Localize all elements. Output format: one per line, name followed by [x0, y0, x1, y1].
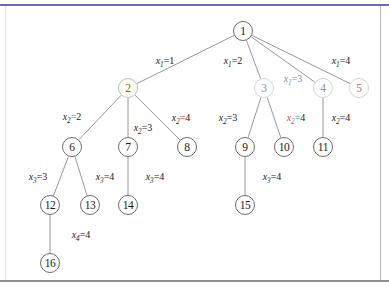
tree-node-16[interactable]: 16 [40, 253, 60, 273]
edge-label-value: 4 [276, 171, 281, 182]
edge-label-value: 3 [147, 122, 152, 133]
tree-node-12[interactable]: 12 [40, 195, 60, 215]
figure-page: 12345678910111213141516 x1=1x1=2x1=3x1=4… [0, 0, 389, 292]
edge-label: x1=2 [224, 55, 243, 68]
edge-label-value: 3 [42, 171, 47, 182]
tree-node-13[interactable]: 13 [80, 195, 100, 215]
tree-edge [246, 40, 260, 78]
edge-label-value: 4 [109, 171, 114, 182]
tree-edge [79, 95, 121, 139]
tree-edge [248, 98, 261, 138]
tree-node-10[interactable]: 10 [274, 137, 294, 157]
edge-label-value: 4 [85, 229, 90, 240]
tree-node-6[interactable]: 6 [62, 137, 82, 157]
tree-node-4[interactable]: 4 [313, 78, 333, 98]
edge-label: x2=4 [172, 112, 191, 125]
edge-label-value: 3 [232, 112, 237, 123]
edge-label-value: 4 [185, 112, 190, 123]
tree-edge [54, 156, 69, 195]
edge-label: x3=4 [96, 171, 115, 184]
edge-label: x3=4 [263, 171, 282, 184]
tree-node-2[interactable]: 2 [118, 78, 138, 98]
edge-label: x4=4 [72, 229, 91, 242]
edge-label-value: 4 [159, 171, 164, 182]
tree-node-11[interactable]: 11 [313, 137, 333, 157]
edge-label: x1=4 [332, 55, 351, 68]
tree-node-14[interactable]: 14 [118, 195, 138, 215]
edge-label-value: 4 [345, 55, 350, 66]
tree-node-9[interactable]: 9 [235, 137, 255, 157]
tree-node-3[interactable]: 3 [254, 78, 274, 98]
edge-label-value: 4 [300, 112, 305, 123]
edge-label: x3=3 [29, 171, 48, 184]
tree-node-7[interactable]: 7 [118, 137, 138, 157]
tree-edge [137, 35, 234, 83]
edge-label: x1=1 [156, 55, 175, 68]
edge-label: x2=3 [219, 112, 238, 125]
edge-label-value: 2 [76, 111, 81, 122]
edge-label: x2=3 [134, 122, 153, 135]
tree-node-5[interactable]: 5 [349, 78, 369, 98]
tree-edge [267, 97, 281, 137]
tree-node-8[interactable]: 8 [177, 137, 197, 157]
edge-label: x2=2 [63, 111, 82, 124]
tree-node-1[interactable]: 1 [233, 21, 253, 41]
tree-node-15[interactable]: 15 [235, 195, 255, 215]
edge-label-value: 3 [297, 73, 302, 84]
edge-label-value: 2 [237, 55, 242, 66]
tree-edge [75, 157, 87, 196]
edge-label: x2=4 [287, 112, 306, 125]
edge-label: x3=4 [146, 171, 165, 184]
edge-label-value: 4 [345, 112, 350, 123]
edge-label: x2=4 [332, 112, 351, 125]
edge-label-value: 1 [169, 55, 174, 66]
edge-label: x1=3 [284, 73, 303, 86]
